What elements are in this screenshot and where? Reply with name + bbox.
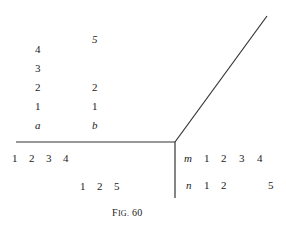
bl-row1-3: 3 [46,153,52,164]
row-n-value-5: 5 [268,180,274,191]
row-n-value-2: 2 [221,180,227,191]
row-n-value-1: 1 [204,180,210,191]
row-n-header: n [186,180,192,191]
row-m-value-1: 1 [204,153,210,164]
row-m-header: m [184,153,192,164]
col-a-value-2: 2 [35,82,41,93]
col-b-header: b [92,120,98,131]
bl-row2-1: 1 [80,181,86,192]
row-m-value-3: 3 [239,153,245,164]
bl-row1-2: 2 [29,153,35,164]
diagram-lines [0,0,286,228]
bl-row1-1: 1 [12,153,18,164]
col-a-value-4: 4 [35,44,41,55]
col-b-value-5: 5 [92,34,98,45]
row-m-value-4: 4 [257,153,263,164]
row-m-value-2: 2 [221,153,227,164]
col-b-value-1: 1 [92,101,98,112]
bl-row2-2: 2 [97,181,103,192]
diagonal-line [175,16,267,142]
col-a-value-3: 3 [35,63,41,74]
caption-smallcaps: IG. [118,209,129,218]
bl-row2-5: 5 [114,181,120,192]
col-b-value-2: 2 [92,82,98,93]
col-a-value-1: 1 [35,101,41,112]
bl-row1-4: 4 [63,153,69,164]
figure-caption: FIG. 60 [112,207,143,218]
caption-number: 60 [132,207,143,218]
col-a-header: a [35,120,41,131]
